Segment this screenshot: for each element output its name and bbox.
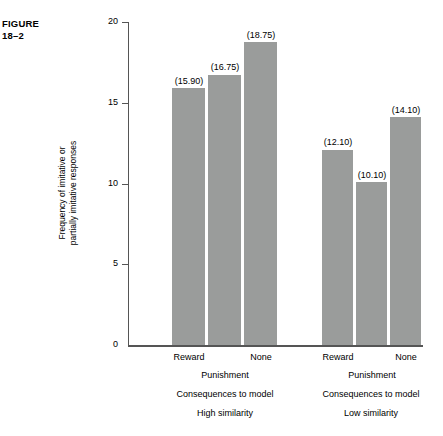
y-tick-mark-10: [122, 184, 128, 185]
bar-low-similarity-punishment: [356, 182, 388, 345]
x-category-low-similarity-none: None: [368, 352, 443, 362]
bar-value-low-similarity-reward: (12.10): [300, 137, 376, 147]
x-category-high-similarity-reward: Reward: [150, 352, 228, 362]
bar-chart: 20 15 10 5 0 Frequency of imitative or p…: [0, 0, 443, 436]
x-category-low-similarity-reward: Reward: [300, 352, 376, 362]
bar-value-high-similarity-none: (18.75): [222, 30, 300, 40]
y-tick-label-5-wrap: 5: [92, 259, 118, 269]
y-axis-title: Frequency of imitative or partially imit…: [57, 103, 79, 283]
y-tick-label-15-wrap: 15: [92, 98, 118, 108]
bar-high-similarity-reward: [172, 88, 206, 345]
x-axis-line: [128, 345, 423, 347]
y-tick-mark-5: [122, 264, 128, 265]
group-caption-low-similarity-name: Low similarity: [293, 408, 443, 418]
bar-high-similarity-punishment: [208, 75, 242, 346]
y-tick-label-0: 0: [92, 340, 118, 349]
group-caption-high-similarity-name: High similarity: [146, 408, 304, 418]
y-tick-label-5: 5: [92, 259, 118, 268]
bar-value-low-similarity-none: (14.10): [368, 105, 443, 115]
y-tick-label-0-wrap: 0: [92, 340, 118, 350]
y-axis-line: [128, 22, 129, 346]
y-tick-label-15: 15: [92, 98, 118, 107]
y-tick-mark-20: [122, 22, 128, 23]
y-tick-label-10-wrap: 10: [92, 179, 118, 189]
bar-high-similarity-none: [244, 42, 278, 345]
y-tick-mark-15: [122, 103, 128, 104]
y-tick-label-20-wrap: 20: [92, 17, 118, 27]
group-caption-low-similarity-consequences: Consequences to model: [293, 389, 443, 399]
y-tick-label-20: 20: [92, 17, 118, 26]
bar-low-similarity-none: [390, 117, 422, 345]
x-category-high-similarity-none: None: [222, 352, 300, 362]
x-category-high-similarity-punishment: Punishment: [186, 370, 264, 380]
group-caption-high-similarity-consequences: Consequences to model: [146, 389, 304, 399]
x-category-low-similarity-punishment: Punishment: [334, 370, 410, 380]
y-tick-label-10: 10: [92, 179, 118, 188]
